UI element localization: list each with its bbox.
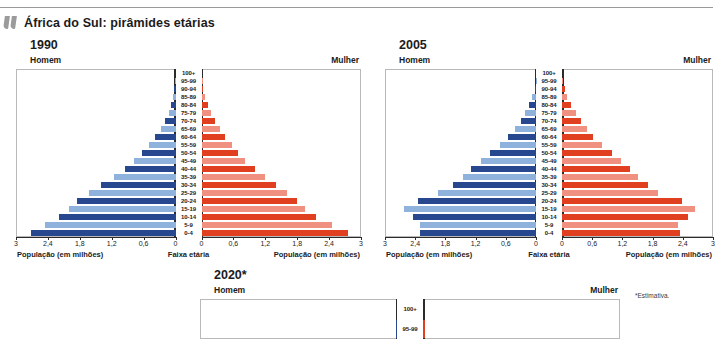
bar-male-20-24 [418,198,536,205]
age-group-label: 60-64 [536,134,562,140]
age-group-label: 35-39 [176,174,202,180]
age-group-label: 10-14 [176,214,202,220]
bar-male-25-29 [438,190,536,197]
bar-female-60-64 [202,134,226,141]
male-label-2020: Homem [214,285,245,295]
male-label-1990: Homem [30,55,61,65]
bar-female-15-19 [562,206,695,213]
bar-female-0-4 [562,230,680,237]
axis-tick-label: 0 [200,240,204,247]
bar-male-5-9 [45,222,175,229]
bar-male-25-29 [89,190,175,197]
bar-female-40-44 [202,166,255,173]
bar-male-55-59 [149,142,176,149]
bar-male-35-39 [114,174,175,181]
age-group-label: 65-69 [176,126,202,132]
bar-female-15-19 [202,206,306,213]
axis-tick-label: 0,6 [501,240,511,247]
chart-year-label-1990: 1990 [30,38,361,52]
bar-male-40-44 [471,166,536,173]
bar-male-15-19 [404,206,536,213]
age-group-label: 15-19 [536,206,562,212]
axis-tick-label: 1,2 [618,240,628,247]
bar-male-15-19 [69,206,175,213]
age-group-label: 50-54 [536,150,562,156]
age-group-label: 10-14 [536,214,562,220]
age-group-label: 70-74 [536,118,562,124]
page-header: África do Sul: pirâmides etárias [0,12,713,34]
bar-male-70-74 [165,118,176,125]
age-group-label: 20-24 [176,198,202,204]
bar-male-20-24 [77,198,175,205]
bar-female-40-44 [562,166,630,173]
bar-female-90-94 [562,86,565,93]
chart-panel-2005: 2005 Homem Mulher 100+95-9990-9485-8980-… [385,38,713,259]
axis-tick-label: 1,2 [471,240,481,247]
chart-panel-1990: 1990 Homem Mulher 100+95-9990-9485-8980-… [16,38,361,259]
sex-label-row-2020: Homem Mulher [200,285,620,298]
axis-tick-label: 2,4 [678,240,688,247]
bar-female-30-34 [202,182,276,189]
pyramid-plot-2005: 100+95-9990-9485-8980-8475-7970-7465-696… [385,69,713,237]
bar-male-65-69 [515,126,536,133]
bar-female-45-49 [202,158,246,165]
axis-tick-label: 3 [14,240,18,247]
chart-year-label-2020: 2020* [214,268,620,282]
bar-male-5-9 [420,222,536,229]
axis-tick-label: 0,6 [229,240,239,247]
age-group-label: 100+ [397,306,423,312]
sex-label-row-2005: Homem Mulher [385,55,713,68]
axis-title-male: População (em milhões) [17,250,103,259]
bar-male-50-54 [490,150,536,157]
bar-male-40-44 [125,166,176,173]
bar-male-35-39 [463,174,536,181]
age-group-label: 0-4 [176,230,202,236]
bar-female-85-89 [562,94,567,101]
bar-female-30-34 [562,182,648,189]
axis-tick-label: 1,2 [260,240,270,247]
female-label-1990: Mulher [331,55,359,65]
age-group-label: 35-39 [536,174,562,180]
bar-female-70-74 [562,118,581,125]
bar-male-65-69 [161,126,176,133]
sex-label-row-1990: Homem Mulher [16,55,361,68]
age-group-label: 50-54 [176,150,202,156]
age-group-label: 80-84 [536,102,562,108]
age-group-axis: 100+95-99 [397,299,423,339]
age-group-label: 75-79 [176,110,202,116]
age-group-label: 5-9 [176,222,202,228]
axis-line-male [385,237,536,238]
bar-female-90-94 [202,86,204,93]
bar-male-60-64 [155,134,175,141]
bar-female-75-79 [562,110,576,117]
bar-female-0-4 [202,230,348,237]
bar-female-75-79 [202,110,212,117]
bar-female-95-99 [202,78,203,85]
bar-male-45-49 [134,158,175,165]
axis-tick-label: 1,8 [648,240,658,247]
age-group-label: 25-29 [176,190,202,196]
bar-female-55-59 [202,142,232,149]
age-group-label: 75-79 [536,110,562,116]
bar-female-95-99 [562,78,563,85]
age-group-label: 95-99 [176,78,202,84]
age-group-label: 20-24 [536,198,562,204]
bar-female-70-74 [202,118,216,125]
male-plot-area [200,299,397,339]
age-group-label: 30-34 [536,182,562,188]
age-group-label: 85-89 [536,94,562,100]
bar-male-45-49 [481,158,536,165]
age-group-label: 45-49 [536,158,562,164]
bar-male-0-4 [420,230,536,237]
bar-male-75-79 [525,110,536,117]
axis-tick-label: 2,4 [410,240,420,247]
bar-female-85-89 [202,94,206,101]
age-group-label: 95-99 [397,326,423,332]
bar-male-70-74 [521,118,536,125]
bar-female-5-9 [202,222,332,229]
axis-tick-label: 2,4 [324,240,334,247]
age-group-label: 90-94 [536,86,562,92]
age-group-label: 45-49 [176,158,202,164]
axis-title-female: População (em milhões) [626,250,712,259]
axis-tick-label: 1,8 [75,240,85,247]
